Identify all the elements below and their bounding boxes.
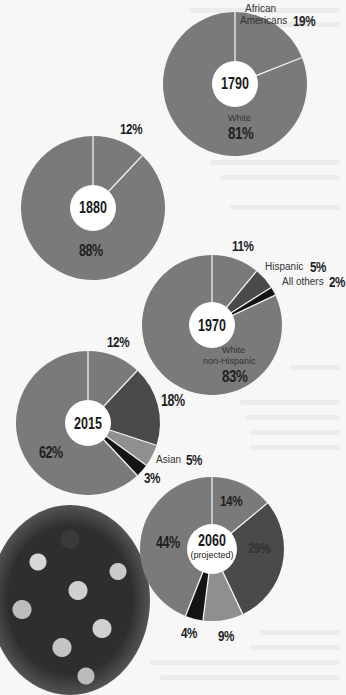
year-1970: 1970 xyxy=(194,318,230,334)
label-1880-main-pct: 88% xyxy=(79,243,103,259)
donut-charts xyxy=(0,0,346,695)
label-2060-light-pct: 9% xyxy=(218,628,234,643)
label-2060-main-pct: 44% xyxy=(156,535,180,551)
label-2060-top-pct: 14% xyxy=(220,493,242,508)
label-2015-main-pct: 62% xyxy=(39,445,63,461)
label-1970-hispanic-pct: 5% xyxy=(310,259,326,274)
label-1970-top-pct: 11% xyxy=(232,238,254,253)
label-1790-african-line2: Americans xyxy=(240,16,287,26)
label-1790-african-pct: 19% xyxy=(293,13,315,28)
label-2015-asian-pct: 5% xyxy=(186,452,202,467)
label-1970-white-line1: White xyxy=(222,346,245,355)
label-2015-black-pct: 3% xyxy=(144,470,160,485)
label-1970-white-pct: 83% xyxy=(222,368,247,385)
label-2060-dark-pct: 29% xyxy=(248,540,270,555)
label-2015-asian: Asian xyxy=(156,455,181,465)
label-1970-white-line2: non-Hispanic xyxy=(203,357,256,366)
year-1880: 1880 xyxy=(75,200,111,216)
label-1790-white: White xyxy=(228,114,251,123)
label-1970-others-pct: 2% xyxy=(329,274,345,289)
label-1880-top-pct: 12% xyxy=(120,121,142,136)
label-2015-dark-pct: 18% xyxy=(161,393,185,409)
year-1790: 1790 xyxy=(217,76,253,92)
year-2060: 2060 xyxy=(194,533,230,549)
label-1790-african-line1: African xyxy=(245,4,276,14)
label-1970-others: All others xyxy=(282,277,324,287)
label-2060-projected: (projected) xyxy=(185,551,239,560)
label-1790-white-pct: 81% xyxy=(228,125,253,142)
year-2015: 2015 xyxy=(70,416,106,432)
label-2015-top-pct: 12% xyxy=(107,334,129,349)
label-1970-hispanic: Hispanic xyxy=(265,262,303,272)
label-2060-black-pct: 4% xyxy=(181,625,197,640)
